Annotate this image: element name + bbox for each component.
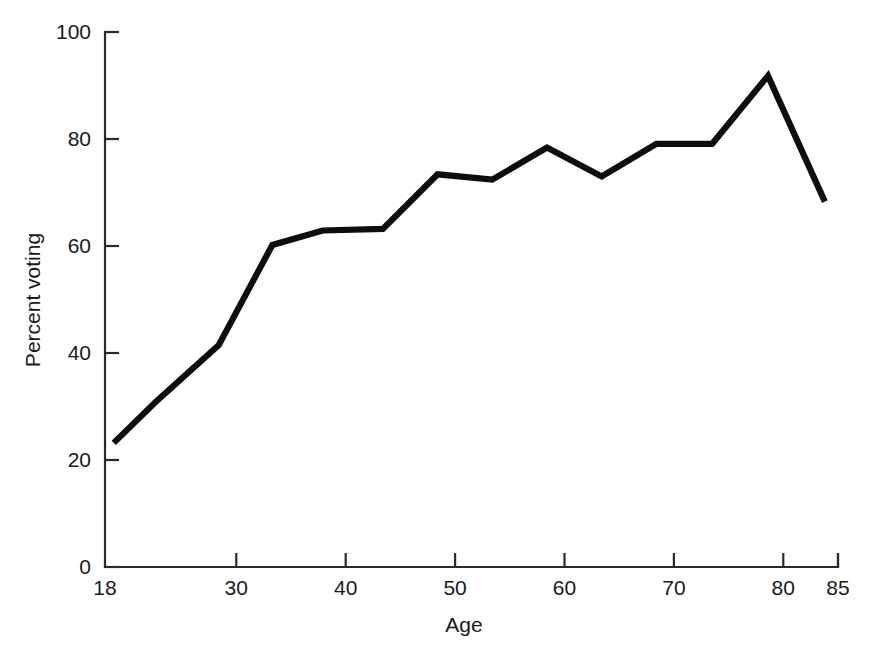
x-tick-label: 18 (93, 576, 116, 599)
x-tick-label: 70 (662, 576, 685, 599)
y-tick-label: 0 (79, 555, 91, 578)
y-tick-label: 80 (68, 127, 91, 150)
y-axis: 020406080100 (56, 20, 119, 578)
y-tick-label: 60 (68, 234, 91, 257)
x-tick-label: 50 (443, 576, 466, 599)
y-tick-label: 40 (68, 341, 91, 364)
y-axis-title: Percent voting (21, 233, 44, 367)
x-tick-label: 40 (334, 576, 357, 599)
x-axis-title: Age (445, 613, 482, 636)
y-tick-label: 20 (68, 448, 91, 471)
x-tick-label: 30 (225, 576, 248, 599)
x-tick-label: 60 (553, 576, 576, 599)
data-series-group (114, 76, 825, 443)
y-tick-label: 100 (56, 20, 91, 43)
series-line (114, 76, 825, 443)
x-tick-label: 80 (772, 576, 795, 599)
plot-area: 020406080100 1830405060708085 (56, 20, 850, 599)
percent-voting-by-age-chart: 020406080100 1830405060708085 Percent vo… (0, 0, 869, 656)
x-axis: 1830405060708085 (93, 553, 849, 599)
x-tick-label: 85 (826, 576, 849, 599)
